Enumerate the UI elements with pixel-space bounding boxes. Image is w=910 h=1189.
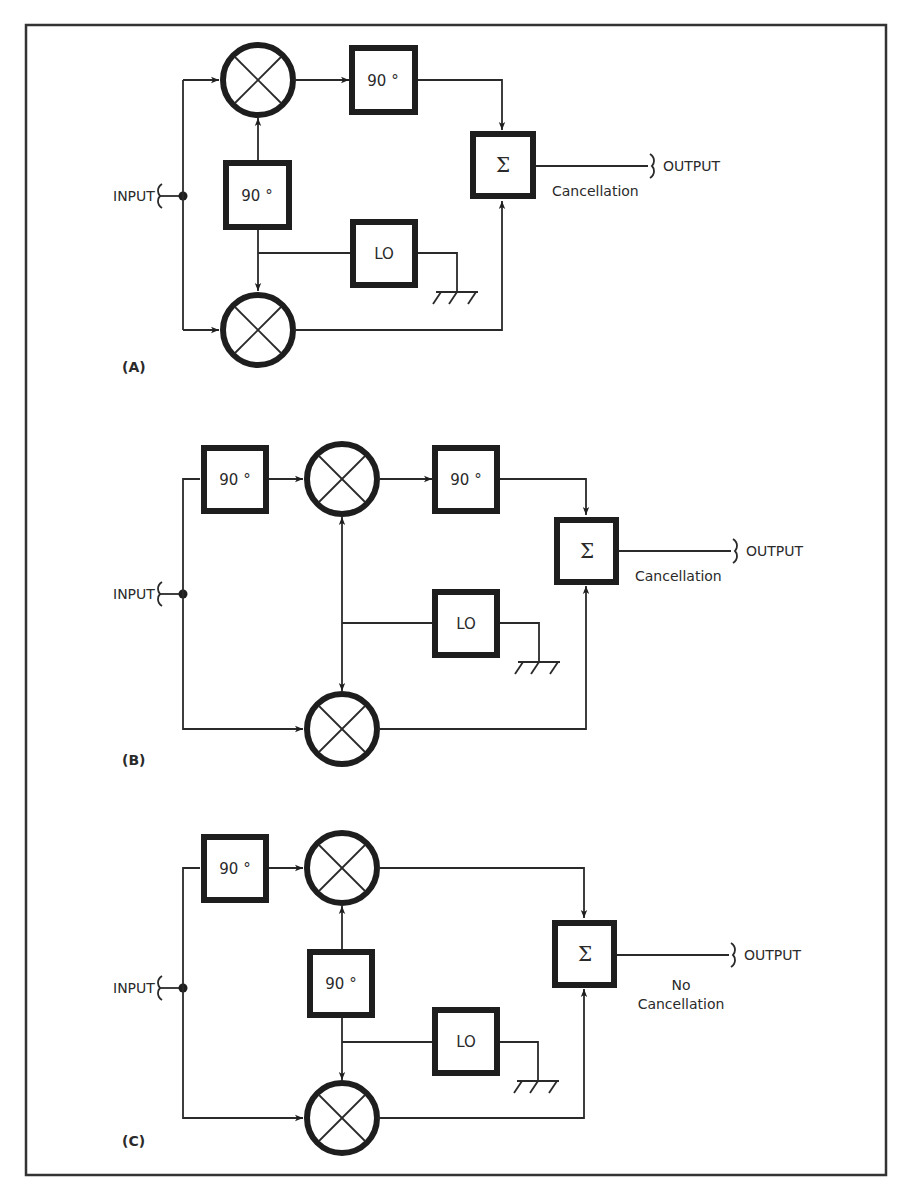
output-label: OUTPUT xyxy=(746,543,804,559)
lo-label: LO xyxy=(456,615,476,633)
diagram-a: INPUT 90 ° 90 ° LO xyxy=(113,45,721,375)
mixer-top-icon xyxy=(307,444,377,514)
phase-shift-label: 90 ° xyxy=(241,187,272,205)
result-label: Cancellation xyxy=(635,568,722,584)
lo-label: LO xyxy=(374,245,394,263)
phase-shift-label: 90 ° xyxy=(219,471,250,489)
phase-shift-label: 90 ° xyxy=(367,72,398,90)
wire-to-sum-top xyxy=(378,868,584,918)
diagram-tag: (A) xyxy=(122,359,146,375)
figure-canvas: INPUT 90 ° 90 ° LO xyxy=(0,0,910,1189)
mixer-bottom-icon xyxy=(223,295,293,365)
wire-to-sum-top xyxy=(500,479,586,515)
wire-lo-ground xyxy=(418,253,457,292)
diagram-c: INPUT 90 ° 90 ° LO xyxy=(113,833,802,1153)
output-brace-icon xyxy=(650,154,654,178)
output-label: OUTPUT xyxy=(744,947,802,963)
sigma-icon: Σ xyxy=(578,942,592,966)
output-brace-icon xyxy=(733,539,737,563)
wire-lo-ground xyxy=(500,623,539,662)
phase-shift-label: 90 ° xyxy=(450,471,481,489)
mixer-bottom-icon xyxy=(307,1083,377,1153)
input-split-wire xyxy=(183,868,303,1118)
mixer-top-icon xyxy=(223,45,293,115)
ground-icon xyxy=(515,662,560,674)
wire-lo-ground xyxy=(500,1042,538,1081)
input-split-wire xyxy=(183,479,303,729)
ground-icon xyxy=(514,1081,559,1093)
mixer-top-icon xyxy=(307,833,377,903)
lo-label: LO xyxy=(456,1033,476,1051)
mixer-bottom-icon xyxy=(307,694,377,764)
output-label: OUTPUT xyxy=(663,158,721,174)
ground-icon xyxy=(433,292,478,304)
result-label-line1: No xyxy=(671,977,690,993)
sigma-icon: Σ xyxy=(496,153,510,177)
diagram-b: INPUT 90 ° 90 ° LO xyxy=(113,444,804,768)
diagram-tag: (C) xyxy=(122,1133,145,1149)
phase-shift-label: 90 ° xyxy=(325,975,356,993)
output-brace-icon xyxy=(731,943,735,967)
sigma-icon: Σ xyxy=(580,539,594,563)
result-label-line2: Cancellation xyxy=(638,996,725,1012)
input-label: INPUT xyxy=(113,980,155,996)
result-label: Cancellation xyxy=(552,183,639,199)
diagram-tag: (B) xyxy=(122,752,145,768)
wire-to-sum-top xyxy=(418,80,502,130)
phase-shift-label: 90 ° xyxy=(219,860,250,878)
input-label: INPUT xyxy=(113,586,155,602)
input-label: INPUT xyxy=(113,188,155,204)
